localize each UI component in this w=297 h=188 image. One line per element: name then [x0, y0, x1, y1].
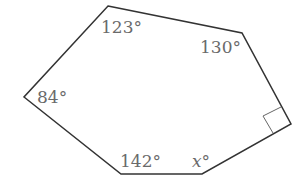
degree-symbol: ° [202, 151, 211, 171]
angle-label-top-right: 130° [200, 37, 241, 57]
angle-variable-x: x [192, 151, 202, 171]
angle-label-bottom-right: x° [192, 151, 210, 171]
hexagon-diagram: 123° 130° 84° 142° x° [0, 0, 297, 188]
diagram-canvas: 123° 130° 84° 142° x° [0, 0, 297, 188]
angle-label-top: 123° [101, 17, 142, 37]
angle-label-bottom-left: 142° [120, 151, 161, 171]
right-angle-marker [263, 107, 281, 133]
angle-label-left: 84° [37, 87, 67, 107]
